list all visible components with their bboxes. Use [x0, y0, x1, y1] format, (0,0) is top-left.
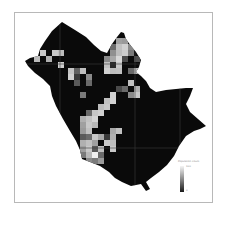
grid-cell: [122, 86, 128, 92]
grid-cell: [116, 62, 122, 68]
grid-cell: [86, 122, 92, 128]
grid-cell: [92, 122, 98, 128]
grid-cell: [98, 104, 104, 110]
grid-cell: [140, 68, 146, 74]
grid-cell: [116, 86, 122, 92]
grid-cell: [110, 56, 116, 62]
grid-cell: [92, 158, 98, 164]
grid-cell: [74, 68, 80, 74]
grid-cell: [74, 80, 80, 86]
grid-cell: [110, 68, 116, 74]
grid-cell: [92, 110, 98, 116]
grid-cell: [116, 44, 122, 50]
grid-cell: [110, 44, 116, 50]
grid-cell: [86, 80, 92, 86]
grid-cell: [86, 134, 92, 140]
grid-cell: [104, 62, 110, 68]
grid-cell: [34, 56, 40, 62]
grid-cell: [86, 152, 92, 158]
grid-cell: [46, 56, 52, 62]
grid-cell: [110, 92, 116, 98]
grid-cell: [86, 116, 92, 122]
grid-cell: [128, 68, 134, 74]
grid-cell: [68, 74, 74, 80]
grid-cell: [58, 50, 64, 56]
grid-cell: [74, 74, 80, 80]
grid-cell: [104, 56, 110, 62]
grid-cell: [122, 50, 128, 56]
grid-cell: [128, 80, 134, 86]
grid-cell: [80, 116, 86, 122]
grid-cell: [128, 44, 134, 50]
grid-cell: [122, 38, 128, 44]
grid-cell: [110, 62, 116, 68]
grid-cell: [104, 134, 110, 140]
grid-cell: [116, 38, 122, 44]
grid-cell: [80, 134, 86, 140]
grid-cell: [98, 158, 104, 164]
grid-cell: [80, 92, 86, 98]
grid-cell: [116, 50, 122, 56]
grid-cell: [86, 146, 92, 152]
grid-cell: [116, 68, 122, 74]
grid-cell: [58, 62, 64, 68]
grid-cell: [98, 146, 104, 152]
grid-cell: [110, 128, 116, 134]
grid-cell: [86, 74, 92, 80]
legend-title: Population Count: [178, 160, 199, 163]
grid-cell: [52, 50, 58, 56]
grid-cell: [98, 152, 104, 158]
grid-cell: [86, 110, 92, 116]
grid-cell: [92, 116, 98, 122]
grid-cell: [110, 140, 116, 146]
grid-cell: [80, 128, 86, 134]
grid-cell: [110, 50, 116, 56]
grid-cell: [122, 56, 128, 62]
grid-cell: [80, 140, 86, 146]
grid-cell: [104, 98, 110, 104]
grid-cell: [86, 128, 92, 134]
map-legend: Population Count 100 0: [178, 160, 210, 196]
grid-cell: [86, 158, 92, 164]
grid-cell: [110, 98, 116, 104]
grid-cell: [104, 68, 110, 74]
grid-cell: [86, 140, 92, 146]
grid-cell: [104, 140, 110, 146]
grid-cell: [80, 68, 86, 74]
grid-cell: [80, 152, 86, 158]
legend-min-label: 0: [186, 189, 188, 192]
grid-cell: [128, 92, 134, 98]
grid-cell: [92, 134, 98, 140]
legend-color-bar: [180, 166, 184, 192]
grid-cell: [98, 110, 104, 116]
grid-cell: [92, 146, 98, 152]
grid-cell: [122, 44, 128, 50]
grid-cell: [116, 128, 122, 134]
grid-cell: [40, 50, 46, 56]
grid-cell: [80, 122, 86, 128]
grid-cell: [80, 146, 86, 152]
grid-cell: [68, 68, 74, 74]
legend-max-label: 100: [186, 165, 191, 168]
grid-cell: [128, 50, 134, 56]
grid-cell: [98, 134, 104, 140]
grid-cell: [92, 140, 98, 146]
grid-cell: [116, 56, 122, 62]
grid-cell: [92, 152, 98, 158]
grid-cell: [110, 134, 116, 140]
grid-cell: [104, 104, 110, 110]
grid-cell: [110, 146, 116, 152]
